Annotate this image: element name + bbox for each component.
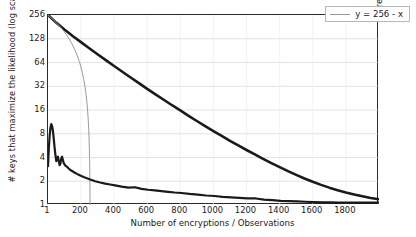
legend[interactable]: y = 256 - x (325, 6, 410, 22)
plot-area (47, 14, 378, 204)
y-tick-label: 2 (3, 176, 45, 184)
x-tick-label: 1200 (235, 206, 256, 215)
y-tick-label: 16 (3, 105, 45, 113)
x-tick-label: 800 (171, 206, 187, 215)
x-tick-label: 600 (138, 206, 154, 215)
y-tick-label: 64 (3, 58, 45, 66)
y-tick-label: 32 (3, 81, 45, 89)
y-tick-label: 1 (3, 200, 45, 208)
y-tick-label: 8 (3, 129, 45, 137)
x-axis-title: Number of encryptions / Observations (47, 218, 378, 228)
x-tick-label: 1600 (301, 206, 322, 215)
legend-entry-label: y = 256 - x (355, 9, 403, 19)
y-tick-label: 128 (3, 34, 45, 42)
figure: # keys that maximize the likelihood (log… (0, 0, 416, 237)
x-tick-label: 1000 (202, 206, 223, 215)
x-axis-tick-labels: 120040060080010001200140016001800 (47, 206, 378, 218)
legend-line-swatch (330, 14, 350, 15)
plot-canvas (48, 15, 379, 205)
y-axis-tick-labels: 1248163264128256 (0, 14, 45, 204)
x-tick-label: 1800 (334, 206, 355, 215)
x-tick-label: 1400 (268, 206, 289, 215)
y-tick-label: 256 (3, 10, 45, 18)
x-tick-label: 200 (72, 206, 88, 215)
x-tick-label: 1 (44, 206, 49, 215)
y-tick-label: 4 (3, 153, 45, 161)
x-tick-label: 400 (105, 206, 121, 215)
